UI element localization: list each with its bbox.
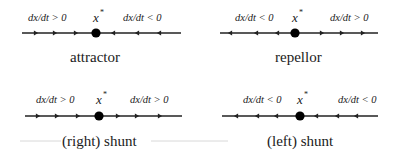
- fixed-point-label: x: [291, 10, 298, 25]
- fixed-point-dot: [295, 111, 304, 120]
- right-derivative-label: dx/dt > 0: [130, 94, 169, 105]
- right-derivative-label: dx/dt < 0: [338, 94, 377, 105]
- fixed-point-dot: [91, 28, 100, 37]
- caption-right-shunt: (right) shunt: [62, 133, 137, 150]
- left-derivative-label: dx/dt < 0: [243, 94, 282, 105]
- caption-left-shunt: (left) shunt: [267, 133, 334, 150]
- fixed-point-dot: [290, 28, 299, 37]
- phase-line-diagram: dx/dt > 0dx/dt < 0x*attractordx/dt < 0dx…: [0, 0, 398, 158]
- left-derivative-label: dx/dt > 0: [36, 94, 75, 105]
- fixed-point-superscript: *: [299, 8, 303, 17]
- arrow-left-icon: [314, 113, 318, 118]
- fixed-point-dot: [94, 111, 103, 120]
- arrow-right-icon: [361, 30, 365, 35]
- arrow-right-icon: [135, 113, 139, 118]
- panel-left-shunt: dx/dt < 0dx/dt < 0x*(left) shunt: [222, 90, 378, 150]
- right-derivative-label: dx/dt > 0: [330, 12, 369, 23]
- arrow-right-icon: [340, 30, 344, 35]
- arrow-left-icon: [354, 113, 358, 118]
- arrow-right-icon: [53, 30, 57, 35]
- arrow-left-icon: [234, 113, 238, 118]
- arrow-left-icon: [255, 113, 259, 118]
- panel-repellor: dx/dt < 0dx/dt > 0x*repellor: [220, 8, 378, 65]
- fixed-point-label: x: [296, 92, 303, 107]
- arrow-right-icon: [116, 113, 120, 118]
- arrow-right-icon: [36, 113, 40, 118]
- arrow-right-icon: [74, 30, 78, 35]
- arrow-right-icon: [76, 113, 80, 118]
- arrow-right-icon: [158, 113, 162, 118]
- left-derivative-label: dx/dt > 0: [28, 12, 67, 23]
- left-derivative-label: dx/dt < 0: [235, 12, 274, 23]
- arrow-right-icon: [320, 30, 324, 35]
- arrow-left-icon: [157, 30, 161, 35]
- arrow-left-icon: [274, 113, 278, 118]
- arrow-right-icon: [55, 113, 59, 118]
- fixed-point-label: x: [95, 92, 102, 107]
- caption-attractor: attractor: [70, 49, 120, 65]
- arrow-left-icon: [111, 30, 115, 35]
- arrow-left-icon: [135, 30, 139, 35]
- arrow-left-icon: [228, 30, 232, 35]
- arrow-right-icon: [34, 30, 38, 35]
- fixed-point-superscript: *: [103, 90, 107, 99]
- panel-attractor: dx/dt > 0dx/dt < 0x*attractor: [22, 8, 181, 65]
- panels-group: dx/dt > 0dx/dt < 0x*attractordx/dt < 0dx…: [22, 8, 378, 150]
- fixed-point-superscript: *: [304, 90, 308, 99]
- caption-repellor: repellor: [275, 49, 322, 65]
- arrow-left-icon: [275, 30, 279, 35]
- fixed-point-superscript: *: [100, 8, 104, 17]
- arrow-left-icon: [254, 30, 258, 35]
- arrow-left-icon: [335, 113, 339, 118]
- fixed-point-label: x: [92, 10, 99, 25]
- right-derivative-label: dx/dt < 0: [123, 12, 162, 23]
